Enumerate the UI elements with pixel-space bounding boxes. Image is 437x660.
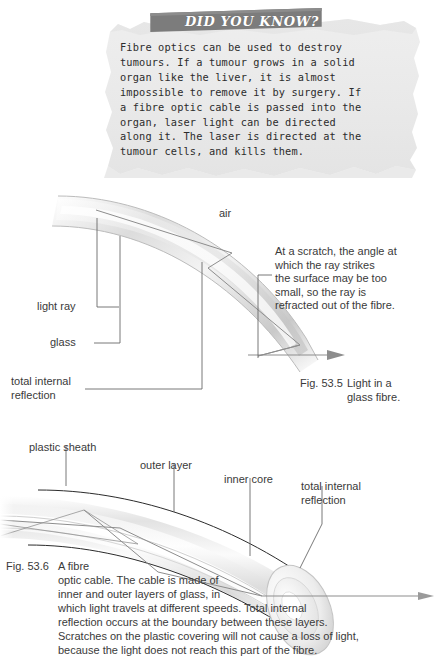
figure-53-5-caption-number: Fig. 53.5 [300,376,343,390]
figure-53-6-label-total-internal-reflection: total internal reflection [301,480,361,507]
figure-53-5-annotation: At a scratch, the angle at which the ray… [275,245,435,313]
figure-53-5-caption-text: Light in a glass fibre. [347,376,400,404]
figure-53-6-label-inner-core: inner core [224,473,273,487]
figure-53-5-label-total-internal-reflection: total internal reflection [11,375,71,402]
figure-53-5-air-label: air [219,207,231,221]
figure-53-6-label-plastic-sheath: plastic sheath [29,441,96,455]
figure-53-6-label-outer-layer: outer layer [140,459,192,473]
figure-53-5-label-glass: glass [50,336,76,350]
figure-53-5-label-light-ray: light ray [37,300,76,314]
figure-53-6-caption-number: Fig. 53.6 [6,559,49,573]
figure-53-6-caption-text: A fibre optic cable. The cable is made o… [58,559,359,657]
